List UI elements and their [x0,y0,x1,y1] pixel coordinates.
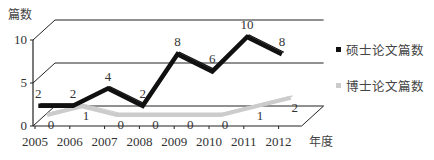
x-tick-label-2012: 2012 [266,134,292,149]
x-axis-title: 年度 [309,134,333,149]
x-tick-label-2008: 2008 [126,134,152,149]
legend-swatch-phd-icon [336,83,341,88]
x-tick-label-2011: 2011 [231,134,257,149]
data-label-master-2012: 8 [279,34,286,49]
depth-line-10 [33,20,55,40]
x-tick-label-2009: 2009 [161,134,187,149]
data-label-phd-2009: 0 [187,117,194,132]
series-master-edge [40,35,284,104]
legend-item-phd: 博士论文篇数 [336,76,424,95]
y-tick-label-10: 10 [14,32,27,47]
x-tick-label-2005: 2005 [22,134,48,149]
data-label-master-2006: 2 [70,86,77,101]
data-label-phd-2008: 0 [152,117,159,132]
legend-swatch-master-icon [336,47,341,52]
x-tick-label-2006: 2006 [57,134,84,149]
legend-item-master: 硕士论文篇数 [336,40,424,59]
y-tick-label-0: 0 [21,118,28,133]
y-axis-title: 篇数 [8,7,32,22]
data-label-master-2011: 10 [241,17,254,32]
data-label-phd-2011: 1 [257,108,264,123]
legend-label-master: 硕士论文篇数 [346,40,424,59]
data-label-master-2010: 6 [209,51,216,66]
data-label-master-2005: 2 [35,86,42,101]
data-label-phd-2012: 2 [291,100,298,115]
y-tick-label-5: 5 [21,75,28,90]
x-tick-label-2010: 2010 [196,134,222,149]
x-tick-label-2007: 2007 [92,134,119,149]
data-label-master-2009: 8 [174,34,181,49]
data-label-phd-2005: 0 [48,117,55,132]
data-label-phd-2007: 0 [117,117,124,132]
floor-right-edge [302,106,324,126]
depth-line-5 [33,63,55,83]
data-label-master-2008: 2 [139,86,146,101]
data-label-master-2007: 4 [105,69,112,84]
legend-label-phd: 博士论文篇数 [346,76,424,95]
data-label-phd-2006: 1 [83,108,90,123]
data-label-phd-2010: 0 [222,117,229,132]
